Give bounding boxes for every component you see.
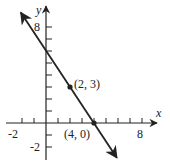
x-ticks (22, 118, 142, 123)
point-label-2-3: (2, 3) (74, 77, 100, 91)
y-tick-label-8: 8 (34, 20, 40, 34)
point-4-0 (91, 120, 96, 125)
y-axis-label: y (35, 3, 42, 17)
point-label-4-0: (4, 0) (64, 127, 90, 141)
point-2-3 (67, 84, 72, 89)
coordinate-plot: x y -2 8 8 -2 (2, 3) (4, 0) (0, 0, 170, 164)
x-axis-label: x (155, 106, 162, 120)
x-tick-label-neg2: -2 (8, 127, 18, 141)
y-tick-label-neg2: -2 (30, 140, 40, 154)
x-tick-label-8: 8 (137, 127, 143, 141)
y-ticks (46, 27, 52, 147)
